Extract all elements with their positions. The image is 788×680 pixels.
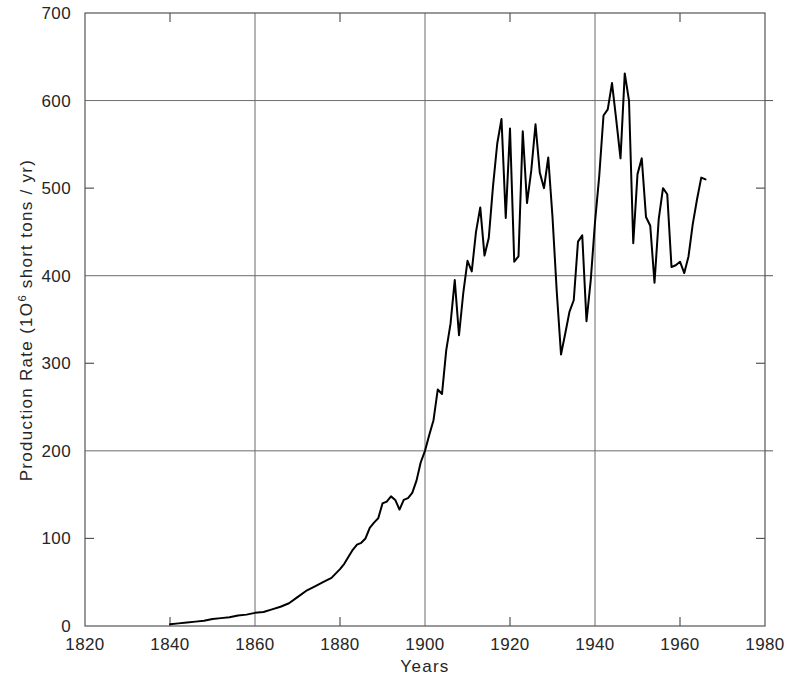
x-tick-label-1900: 1900 (405, 635, 444, 654)
y-tick-label-100: 100 (41, 529, 71, 548)
y-tick-label-300: 300 (41, 354, 71, 373)
production-rate-line-chart: 182018401860188019001920194019601980 010… (0, 0, 788, 680)
x-tick-label-1920: 1920 (490, 635, 529, 654)
y-axis-title-suffix: short tons / yr) (17, 159, 36, 294)
x-axis-tick-labels: 182018401860188019001920194019601980 (65, 635, 784, 654)
x-tick-label-1960: 1960 (660, 635, 699, 654)
y-tick-label-500: 500 (41, 179, 71, 198)
x-tick-label-1840: 1840 (150, 635, 189, 654)
y-tick-label-200: 200 (41, 442, 71, 461)
y-tick-label-400: 400 (41, 267, 71, 286)
x-tick-label-1880: 1880 (320, 635, 359, 654)
y-tick-label-700: 700 (41, 4, 71, 23)
x-axis-title: Years (400, 657, 449, 676)
y-axis-title: Production Rate (1O6 short tons / yr) (16, 159, 36, 482)
x-tick-label-1940: 1940 (575, 635, 614, 654)
y-tick-label-0: 0 (61, 617, 71, 636)
x-tick-label-1820: 1820 (65, 635, 104, 654)
x-tick-label-1860: 1860 (235, 635, 274, 654)
figure-container: 182018401860188019001920194019601980 010… (0, 0, 788, 680)
y-axis-title-superscript: 6 (16, 294, 28, 301)
y-axis-title-prefix: Production Rate (1O (17, 302, 36, 482)
x-tick-label-1980: 1980 (745, 635, 784, 654)
svg-text:Production Rate (1O6 short ton: Production Rate (1O6 short tons / yr) (16, 159, 36, 482)
y-tick-label-600: 600 (41, 92, 71, 111)
chart-background (0, 0, 788, 680)
